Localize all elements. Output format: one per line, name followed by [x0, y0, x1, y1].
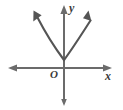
coordinate-plane-graphic — [0, 0, 123, 110]
y-axis-down-arrowhead-icon — [61, 99, 67, 106]
origin-label: O — [50, 69, 58, 80]
y-axis-label: y — [69, 2, 74, 14]
x-axis-label: x — [105, 70, 111, 82]
y-axis-up-arrowhead-icon — [60, 5, 67, 14]
parabola-left-arrowhead-icon — [33, 11, 41, 22]
parabola-curve — [33, 11, 91, 61]
parabola-right-arrowhead-icon — [83, 11, 91, 22]
x-axis — [8, 64, 112, 71]
parabola-figure: y x O — [0, 0, 123, 110]
x-axis-left-arrowhead-icon — [8, 64, 17, 71]
